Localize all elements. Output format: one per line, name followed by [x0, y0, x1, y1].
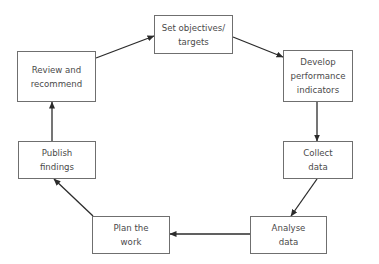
node-label-line: Collect: [303, 146, 332, 160]
node-collect-data: Collect data: [283, 141, 353, 179]
node-set-objectives: Set objectives/ targets: [154, 15, 233, 54]
arrow-plan-to-publish: [54, 179, 93, 216]
node-label-line: Publish: [40, 146, 74, 160]
node-plan-work: Plan the work: [92, 216, 170, 254]
node-label-line: Develop: [290, 55, 345, 69]
node-label-line: data: [303, 160, 332, 174]
node-label-line: Set objectives/: [162, 21, 225, 35]
node-label-line: work: [113, 235, 148, 249]
arrow-set-objectives-to-develop: [233, 37, 283, 57]
node-label-line: indicators: [290, 83, 345, 97]
node-review-recommend: Review and recommend: [17, 51, 96, 102]
node-label-line: data: [272, 235, 306, 249]
node-label-line: targets: [162, 35, 225, 49]
node-label-line: performance: [290, 69, 345, 83]
node-develop-indicators: Develop performance indicators: [283, 50, 353, 102]
node-label-line: findings: [40, 160, 74, 174]
arrow-review-to-set-objectives: [96, 36, 154, 58]
node-label-line: Plan the: [113, 221, 148, 235]
node-publish-findings: Publish findings: [18, 141, 96, 179]
node-label-line: Review and: [31, 63, 83, 77]
node-label-line: recommend: [31, 77, 83, 91]
node-label-line: Analyse: [272, 221, 306, 235]
arrow-collect-to-analyse: [291, 179, 317, 216]
node-analyse-data: Analyse data: [250, 216, 327, 254]
